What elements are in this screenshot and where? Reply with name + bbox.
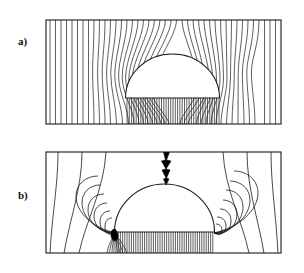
panel-a-dome-fill (126, 54, 220, 98)
panel-b-field-lines (50, 152, 278, 253)
panel-b-base-dense-lines (116, 232, 213, 253)
field-diagram-svg (0, 0, 304, 273)
panel-b (46, 152, 281, 253)
lightning-bolt-icon (162, 152, 172, 185)
panel-a-base-dense-lines (127, 98, 219, 124)
right-nested-arcs (214, 171, 258, 234)
panel-label-a: a) (18, 36, 27, 47)
panel-label-b: b) (18, 190, 28, 201)
panel-a (46, 20, 281, 124)
panel-a-field-lines (50, 20, 276, 124)
left-nested-arcs (76, 176, 116, 234)
panel-b-dome-fill (115, 184, 215, 232)
field-line-figure: a) b) (0, 0, 304, 273)
